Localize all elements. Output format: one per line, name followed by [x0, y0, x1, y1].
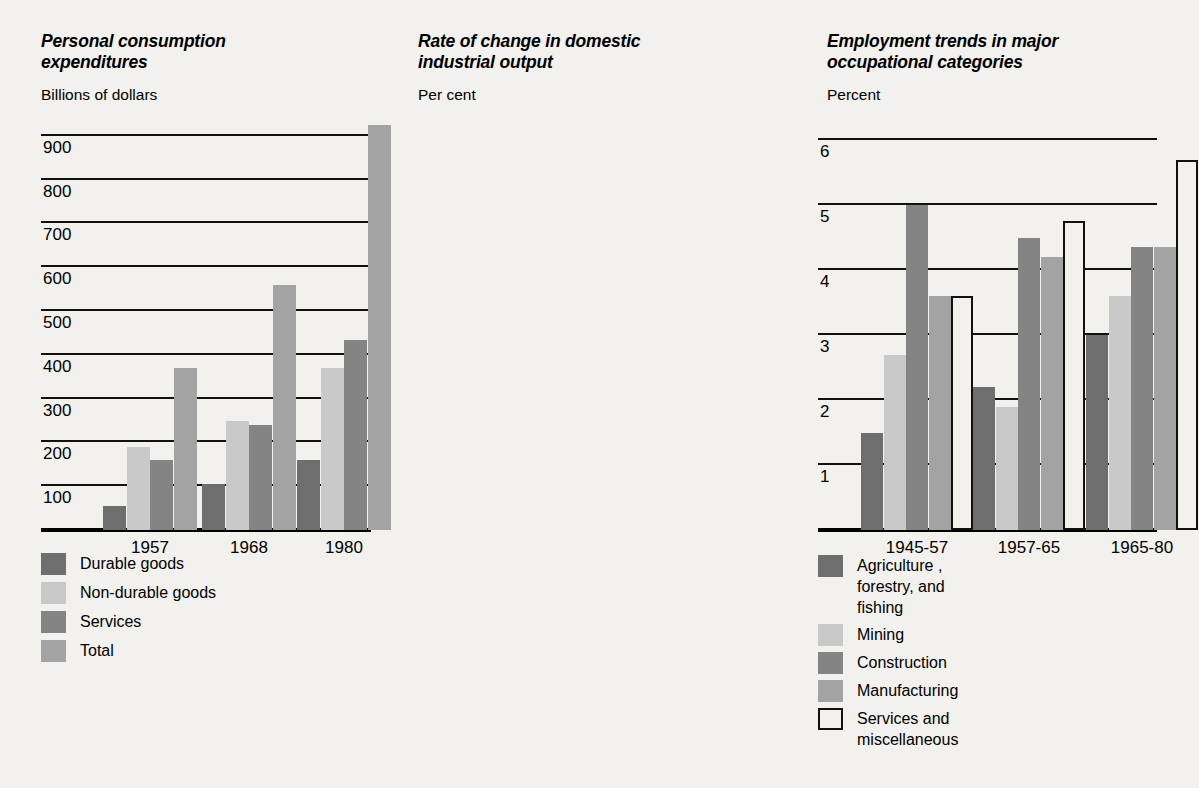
- x-axis-tick-label: 1980: [284, 538, 404, 558]
- bar[interactable]: [127, 447, 150, 530]
- bar[interactable]: [150, 460, 173, 530]
- page-title-chart-2: Rate of change in domestic industrial ou…: [418, 31, 768, 73]
- bar[interactable]: [103, 506, 126, 530]
- gridline: [41, 134, 371, 136]
- legend-label: Non-durable goods: [80, 582, 216, 603]
- y-axis-tick-label: 400: [43, 358, 71, 375]
- bar[interactable]: [368, 125, 391, 530]
- legend-swatch: [41, 611, 66, 633]
- axis-unit-chart-1: Billions of dollars: [41, 86, 157, 104]
- legend-label: Services: [80, 611, 141, 632]
- y-axis-tick-label: 300: [43, 402, 71, 419]
- axis-unit-chart-2: Per cent: [418, 86, 476, 104]
- bar[interactable]: [273, 285, 296, 530]
- legend-chart-1: Durable goodsNon-durable goodsServicesTo…: [41, 553, 216, 669]
- legend-item[interactable]: Non-durable goods: [41, 582, 216, 604]
- page-title-chart-1: Personal consumption expenditures: [41, 31, 371, 73]
- chart-panel-industrial-output: Rate of change in domestic industrial ou…: [400, 0, 800, 788]
- y-axis-tick-label: 600: [43, 270, 71, 287]
- bar[interactable]: [202, 484, 225, 530]
- gridline: [41, 265, 371, 267]
- chart-panel-personal-consumption: Personal consumption expenditures Billio…: [0, 0, 400, 788]
- plot-area-chart-1: 100200300400500600700800900195719681980: [41, 112, 371, 530]
- gridline: [41, 309, 371, 311]
- legend-item[interactable]: Total: [41, 640, 216, 662]
- bar[interactable]: [249, 425, 272, 530]
- legend-item[interactable]: Durable goods: [41, 553, 216, 575]
- y-axis-tick-label: 900: [43, 139, 71, 156]
- legend-swatch: [41, 640, 66, 662]
- legend-item[interactable]: Services: [41, 611, 216, 633]
- gridline: [41, 178, 371, 180]
- y-axis-tick-label: 200: [43, 445, 71, 462]
- gridline: [41, 353, 371, 355]
- bar[interactable]: [226, 421, 249, 530]
- bar[interactable]: [321, 368, 344, 530]
- chart-panel-employment-trends: Employment trends in major occupational …: [800, 0, 1199, 788]
- axis-unit-chart-3: Percent: [827, 86, 880, 104]
- y-axis-tick-label: 500: [43, 314, 71, 331]
- y-axis-tick-label: 700: [43, 226, 71, 243]
- y-axis-tick-label: 800: [43, 183, 71, 200]
- legend-label: Durable goods: [80, 553, 184, 574]
- bar[interactable]: [344, 340, 367, 530]
- page-title-chart-3: Employment trends in major occupational …: [827, 31, 1177, 73]
- gridline: [41, 221, 371, 223]
- bar[interactable]: [297, 460, 320, 530]
- y-axis-tick-label: 100: [43, 489, 71, 506]
- bar[interactable]: [174, 368, 197, 530]
- legend-swatch: [41, 553, 66, 575]
- legend-swatch: [41, 582, 66, 604]
- legend-label: Total: [80, 640, 114, 661]
